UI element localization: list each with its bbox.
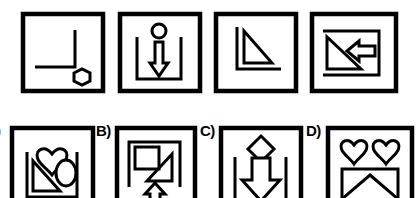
corner-bracket-l-shape: [35, 30, 75, 67]
panel-frame: [216, 14, 296, 91]
sequence-panel-2[interactable]: [117, 11, 203, 94]
heart-shape-left: [341, 141, 367, 164]
circle-shape: [152, 24, 166, 38]
right-triangle-shape: [244, 31, 272, 63]
down-arrow-shape: [150, 42, 168, 76]
hexagon-shape: [74, 69, 90, 85]
down-arrow-shape: [242, 158, 280, 198]
diamond-shape: [342, 175, 398, 198]
heart-shape-right: [373, 141, 399, 164]
square-shape: [135, 147, 159, 169]
abstract-reasoning-puzzle: ) B) C) D): [0, 0, 417, 198]
up-arrow-shape: [145, 183, 165, 198]
sequence-panel-3[interactable]: [213, 11, 299, 94]
option-a-label: ): [0, 123, 1, 138]
sequence-panel-1[interactable]: [20, 11, 106, 94]
option-c-label: C): [200, 123, 215, 138]
option-c-panel[interactable]: [218, 125, 304, 198]
option-d-label: D): [306, 123, 321, 138]
ellipse-shape: [56, 160, 76, 186]
option-b-label: B): [96, 123, 111, 138]
sequence-panel-4[interactable]: [309, 11, 399, 94]
option-d-panel[interactable]: [325, 125, 415, 198]
option-a-panel[interactable]: [9, 125, 97, 198]
option-b-panel[interactable]: [114, 125, 198, 198]
